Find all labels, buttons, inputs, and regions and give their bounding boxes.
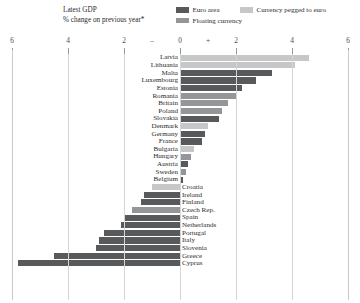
gridline <box>124 54 125 300</box>
bar <box>96 245 180 251</box>
x-axis-label: 4 <box>290 36 294 45</box>
bar <box>180 154 191 160</box>
x-axis-label: 4 <box>66 36 70 45</box>
gridline <box>68 54 69 300</box>
x-axis-label: 0 <box>178 36 182 45</box>
chart-title: Latest GDP <box>63 6 97 15</box>
bar <box>124 215 180 221</box>
legend-label-pegged: Currency pegged to euro <box>257 6 326 14</box>
bar <box>180 138 202 144</box>
category-label: Cyprus <box>182 259 203 267</box>
bar <box>180 55 309 61</box>
x-axis-label: + <box>206 36 210 45</box>
x-axis-labels: 642–0+246 <box>0 36 360 47</box>
gridline <box>180 54 181 300</box>
bar <box>132 207 180 213</box>
bar <box>99 237 180 243</box>
bar <box>180 100 228 106</box>
x-axis-label: 2 <box>234 36 238 45</box>
bar <box>180 85 242 91</box>
chart-legend: Euro area Currency pegged to euro Floati… <box>176 6 360 27</box>
bar <box>180 93 236 99</box>
x-axis-label: 2 <box>122 36 126 45</box>
bar <box>144 192 180 198</box>
legend-swatch-pegged <box>240 7 253 13</box>
bar <box>180 116 219 122</box>
bar <box>180 123 208 129</box>
bar <box>180 146 194 152</box>
category-label: Belgium <box>154 175 178 183</box>
bar <box>121 222 180 228</box>
legend-item-euro: Euro area <box>176 6 240 14</box>
legend-swatch-euro <box>176 7 189 13</box>
chart-subtitle: % change on previous year* <box>63 16 144 25</box>
x-axis-label: – <box>150 36 154 45</box>
x-axis-label: 6 <box>346 36 350 45</box>
gdp-chart: Latest GDP % change on previous year* Eu… <box>0 0 360 303</box>
gridline <box>292 54 293 300</box>
legend-swatch-floating <box>176 18 189 24</box>
legend-item-pegged: Currency pegged to euro <box>240 6 326 14</box>
legend-row-1: Euro area Currency pegged to euro <box>176 6 360 17</box>
legend-row-2: Floating currency <box>176 17 360 28</box>
bar <box>180 70 272 76</box>
bar <box>180 161 188 167</box>
bar <box>104 230 180 236</box>
bar <box>180 108 222 114</box>
legend-item-floating: Floating currency <box>176 17 242 25</box>
bar <box>180 77 256 83</box>
x-axis-label: 6 <box>10 36 14 45</box>
legend-label-floating: Floating currency <box>193 17 243 25</box>
bar <box>141 199 180 205</box>
gridline <box>236 54 237 300</box>
bar <box>180 62 295 68</box>
bar <box>152 184 180 190</box>
bar <box>180 131 205 137</box>
legend-label-euro: Euro area <box>193 6 220 14</box>
bar <box>18 260 180 266</box>
bar <box>54 253 180 259</box>
